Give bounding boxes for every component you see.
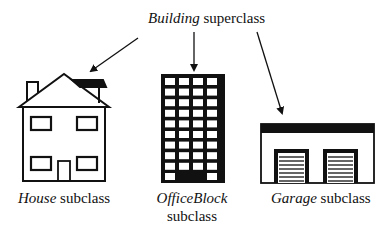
- house-suffix: subclass: [60, 190, 110, 206]
- officeblock-icon: [161, 74, 225, 183]
- garage-name: Garage: [271, 190, 317, 206]
- officeblock-name: OfficeBlock: [157, 190, 228, 206]
- house-icon: [19, 74, 109, 181]
- arrow-to-house: [91, 38, 138, 71]
- officeblock-label: OfficeBlock subclass: [152, 189, 232, 225]
- house-name: House: [18, 190, 56, 206]
- garage-label: Garage subclass: [271, 189, 371, 207]
- garage-suffix: subclass: [321, 190, 371, 206]
- arrow-to-garage: [257, 32, 282, 113]
- garage-icon: [261, 124, 374, 183]
- house-label: House subclass: [18, 189, 110, 207]
- officeblock-suffix: subclass: [167, 208, 217, 224]
